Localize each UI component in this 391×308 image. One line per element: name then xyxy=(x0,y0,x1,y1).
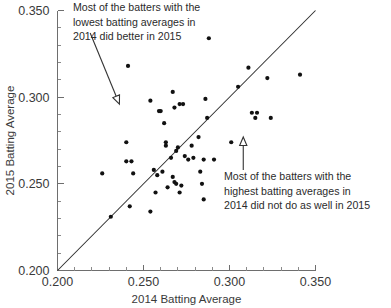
data-point xyxy=(269,116,273,120)
data-point xyxy=(124,140,128,144)
annotation-line: 2014 did better in 2015 xyxy=(73,30,181,42)
data-point xyxy=(186,157,190,161)
y-tick-label: 0.250 xyxy=(18,177,49,191)
annotation-labels: Most of the batters with thelowest batti… xyxy=(73,1,370,211)
data-point xyxy=(298,73,302,77)
scatter-plot-figure: 0.2000.2500.3000.3500.2000.2500.3000.350… xyxy=(0,0,391,308)
data-point xyxy=(165,185,169,189)
y-tick-label: 0.350 xyxy=(18,4,49,18)
y-axis-title: 2015 Batting Average xyxy=(4,86,16,196)
data-point xyxy=(265,76,269,80)
data-point xyxy=(246,66,250,70)
x-tick-label: 0.250 xyxy=(128,275,159,289)
data-point xyxy=(202,197,206,201)
identity-reference-line xyxy=(58,11,316,271)
data-point xyxy=(159,109,163,113)
annotation-line: Most of the batters with the xyxy=(224,170,351,182)
data-point xyxy=(155,173,159,177)
data-point xyxy=(129,159,133,163)
data-point xyxy=(162,121,166,125)
data-point xyxy=(207,36,211,40)
data-point xyxy=(172,105,176,109)
data-point xyxy=(124,159,128,163)
annotation-arrows xyxy=(90,33,247,170)
x-axis-title: 2014 Batting Average xyxy=(132,293,242,305)
data-point xyxy=(200,182,204,186)
annotation-line: highest batting averages in xyxy=(224,185,351,197)
data-point xyxy=(148,99,152,103)
annotation-arrow-head xyxy=(240,137,247,146)
data-point xyxy=(196,135,200,139)
data-point xyxy=(202,157,206,161)
data-point xyxy=(236,85,240,89)
x-tick-label: 0.300 xyxy=(214,275,245,289)
identity-line xyxy=(58,11,316,271)
data-point xyxy=(169,156,173,160)
data-point xyxy=(250,111,254,115)
annotation-arrow-head xyxy=(113,95,120,104)
tick-labels: 0.2000.2500.3000.3500.2000.2500.3000.350 xyxy=(18,4,331,289)
data-point xyxy=(128,204,132,208)
data-point xyxy=(179,183,183,187)
data-point xyxy=(190,144,194,148)
data-point xyxy=(171,90,175,94)
annotation-line: Most of the batters with the xyxy=(73,1,200,13)
data-point xyxy=(109,215,113,219)
data-point xyxy=(178,190,182,194)
data-point xyxy=(126,64,130,68)
data-point xyxy=(181,102,185,106)
data-point xyxy=(160,170,164,174)
y-tick-label: 0.300 xyxy=(18,91,49,105)
x-tick-label: 0.350 xyxy=(300,275,331,289)
data-point xyxy=(191,156,195,160)
data-point xyxy=(183,154,187,158)
data-point xyxy=(153,190,157,194)
data-point xyxy=(171,175,175,179)
data-point xyxy=(205,116,209,120)
data-point xyxy=(198,170,202,174)
data-point xyxy=(148,209,152,213)
data-point xyxy=(203,97,207,101)
data-point xyxy=(164,144,168,148)
data-point xyxy=(212,157,216,161)
plot-canvas: 0.2000.2500.3000.3500.2000.2500.3000.350… xyxy=(0,0,391,308)
data-point xyxy=(255,111,259,115)
data-point xyxy=(253,116,257,120)
data-point xyxy=(131,171,135,175)
annotation-line: lowest batting averages in xyxy=(73,16,196,28)
annotation-arrow-shaft xyxy=(90,33,116,96)
data-point xyxy=(174,182,178,186)
data-point xyxy=(229,140,233,144)
data-point xyxy=(176,145,180,149)
data-point xyxy=(152,168,156,172)
annotation-line: 2014 did not do as well in 2015 xyxy=(224,199,370,211)
data-point xyxy=(100,171,104,175)
y-tick-label: 0.200 xyxy=(18,264,49,278)
